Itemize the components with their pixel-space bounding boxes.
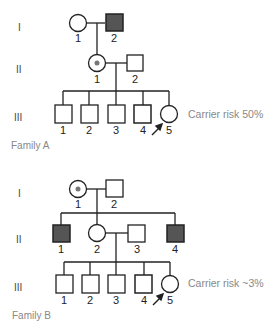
individual-number: 2 bbox=[90, 243, 104, 255]
fa-III-5-female-proband bbox=[161, 106, 178, 123]
carrier-dot-icon bbox=[76, 187, 81, 192]
fb-III-3-male bbox=[108, 275, 125, 293]
individual-number: 1 bbox=[54, 243, 68, 255]
individual-number: 2 bbox=[128, 73, 142, 85]
individual-number: 5 bbox=[162, 124, 176, 136]
fb-II-4-male-affected bbox=[167, 225, 184, 242]
individual-number: 4 bbox=[137, 294, 151, 306]
individual-number: 4 bbox=[168, 243, 182, 255]
fa-III-4-male bbox=[134, 105, 151, 123]
generation-label-I: I bbox=[18, 188, 21, 199]
proband-arrow-icon bbox=[152, 124, 162, 135]
fb-II-1-male-affected bbox=[53, 225, 70, 242]
fb-III-4-male bbox=[135, 275, 152, 293]
carrier-dot-icon bbox=[95, 61, 100, 66]
fa-III-3-male bbox=[108, 105, 125, 123]
individual-number: 5 bbox=[163, 294, 177, 306]
fb-III-5-female-proband bbox=[162, 276, 179, 293]
fa-II-2-male bbox=[127, 55, 143, 71]
family-label: Family B bbox=[12, 310, 51, 321]
fb-III-1-male bbox=[56, 275, 73, 293]
fa-I-1-female bbox=[70, 15, 87, 32]
individual-number: 1 bbox=[57, 294, 71, 306]
carrier-risk-annotation: Carrier risk 50% bbox=[188, 108, 263, 120]
fb-III-2-male bbox=[82, 275, 99, 293]
fb-I-2-male bbox=[106, 180, 123, 197]
individual-number: 3 bbox=[130, 243, 144, 255]
individual-number: 1 bbox=[71, 198, 85, 210]
individual-number: 1 bbox=[90, 73, 104, 85]
individual-number: 2 bbox=[83, 294, 97, 306]
generation-label-I: I bbox=[18, 22, 21, 33]
individual-number: 3 bbox=[109, 294, 123, 306]
individual-number: 1 bbox=[56, 124, 70, 136]
generation-label-III: III bbox=[14, 112, 22, 123]
fa-I-2-male-affected bbox=[106, 14, 123, 31]
individual-number: 2 bbox=[107, 198, 121, 210]
fa-III-1-male bbox=[55, 105, 72, 123]
proband-arrow-icon bbox=[153, 294, 163, 305]
individual-number: 2 bbox=[107, 32, 121, 44]
fb-II-3-male bbox=[128, 225, 145, 242]
fb-II-2-female bbox=[89, 225, 106, 242]
individual-number: 2 bbox=[82, 124, 96, 136]
individual-number: 4 bbox=[136, 124, 150, 136]
carrier-risk-annotation: Carrier risk ~3% bbox=[188, 277, 264, 289]
individual-number: 3 bbox=[109, 124, 123, 136]
generation-label-III: III bbox=[14, 282, 22, 293]
family-label: Family A bbox=[11, 140, 49, 151]
generation-label-II: II bbox=[16, 234, 22, 245]
individual-number: 1 bbox=[71, 32, 85, 44]
generation-label-II: II bbox=[16, 64, 22, 75]
fa-III-2-male bbox=[81, 105, 98, 123]
